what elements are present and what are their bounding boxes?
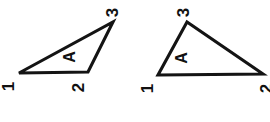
- figure-canvas: 1 2 3 A 1 2 3 A: [0, 0, 270, 122]
- triangle-left-vertex-label-1: 1: [0, 82, 17, 91]
- triangle-left-vertex-label-3: 3: [104, 8, 121, 17]
- triangle-right-vertex-label-2: 2: [258, 84, 270, 93]
- triangle-left-outline: [19, 22, 113, 73]
- triangle-right-region-label: A: [174, 52, 190, 64]
- triangle-left-vertex-label-2: 2: [70, 83, 87, 92]
- triangle-right-vertex-label-3: 3: [175, 8, 192, 17]
- triangle-right-outline: [158, 22, 263, 75]
- triangle-left-region-label: A: [62, 51, 78, 63]
- triangle-right-vertex-label-1: 1: [139, 84, 156, 93]
- triangles-drawing: [0, 0, 270, 122]
